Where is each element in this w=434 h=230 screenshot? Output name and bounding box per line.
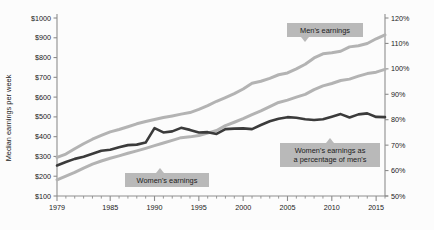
x-axis-tick-label: 2005	[279, 203, 295, 212]
callout-label: a percentage of men's	[294, 155, 367, 164]
earnings-line-chart: $100$200$300$400$500$600$700$800$900$100…	[0, 0, 434, 230]
x-axis-tick-label: 2000	[235, 203, 251, 212]
y-axis-right-tick-label: 80%	[391, 115, 406, 124]
y-axis-left-tick-label: $300	[35, 152, 51, 161]
y-axis-left-tick-label: $700	[35, 73, 51, 82]
y-axis-left-tick-label: $500	[35, 112, 51, 121]
x-axis-tick-label: 1979	[49, 203, 65, 212]
y-axis-right-tick-label: 120%	[391, 14, 410, 23]
y-axis-left-tick-label: $900	[35, 33, 51, 42]
y-axis-left-tick-label: $800	[35, 53, 51, 62]
x-axis-tick-label: 2010	[324, 203, 340, 212]
y-axis-right-tick-label: 100%	[391, 64, 410, 73]
callout-label: Men's earnings	[300, 26, 350, 35]
y-axis-right-tick-label: 60%	[391, 166, 406, 175]
x-axis-tick-label: 1995	[191, 203, 207, 212]
x-axis-tick-label: 1990	[147, 203, 163, 212]
y-axis-right-tick-label: 110%	[391, 39, 409, 48]
y-axis-left-tick-label: $400	[35, 132, 51, 141]
y-axis-right-tick-label: 50%	[391, 192, 406, 201]
y-axis-left-tick-label: $200	[35, 172, 51, 181]
x-axis-tick-label: 2015	[368, 203, 384, 212]
y-axis-left-tick-label: $1000	[31, 14, 51, 23]
chart-container: $100$200$300$400$500$600$700$800$900$100…	[0, 0, 434, 230]
y-axis-left-title: Median earnings per week	[4, 74, 13, 161]
y-axis-left-tick-label: $100	[35, 192, 51, 201]
callout-label: Women's earnings	[137, 176, 198, 185]
callout-label: Women's earnings as	[295, 146, 366, 155]
y-axis-right-tick-label: 90%	[391, 90, 406, 99]
y-axis-left-tick-label: $600	[35, 93, 51, 102]
x-axis-tick-label: 1985	[102, 203, 118, 212]
y-axis-right-tick-label: 70%	[391, 141, 406, 150]
